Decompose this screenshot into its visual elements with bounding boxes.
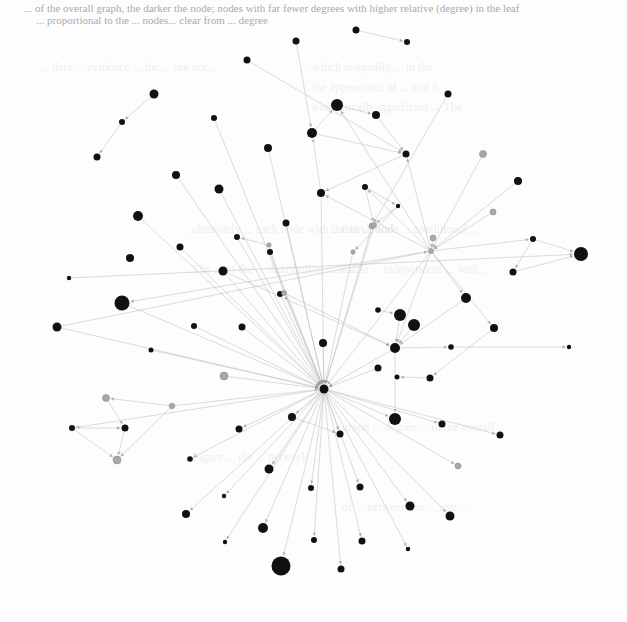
- graph-node: [219, 267, 228, 276]
- graph-edge: [297, 44, 311, 127]
- graph-edge: [536, 240, 574, 252]
- graph-edge: [400, 347, 447, 348]
- graph-node: [223, 540, 227, 544]
- graph-node: [211, 115, 217, 121]
- graph-edge: [328, 390, 495, 434]
- graph-edge: [314, 394, 323, 537]
- graph-node: [267, 243, 271, 247]
- graph-node: [497, 432, 504, 439]
- graph-node: [351, 250, 355, 254]
- graph-edge: [270, 248, 283, 291]
- graph-edge: [153, 351, 318, 388]
- graph-node: [490, 209, 496, 215]
- graph-node: [461, 293, 471, 303]
- graph-node: [390, 343, 400, 353]
- graph-node: [359, 538, 366, 545]
- graph-edge: [239, 240, 322, 385]
- graph-node: [430, 235, 436, 241]
- graph-edge: [324, 394, 340, 565]
- graph-edge: [287, 226, 323, 383]
- graph-node: [396, 204, 400, 208]
- graph-edge: [368, 189, 396, 205]
- graph-node: [490, 324, 498, 332]
- graph-node: [149, 348, 154, 353]
- graph-edge: [374, 97, 446, 223]
- graph-node: [133, 211, 143, 221]
- graph-node: [265, 465, 274, 474]
- graph-edge: [100, 124, 121, 153]
- graph-node: [510, 269, 517, 276]
- graph-edge: [197, 327, 319, 386]
- graph-node: [375, 307, 381, 313]
- graph-edge: [321, 197, 324, 384]
- graph-edge: [434, 184, 515, 249]
- graph-edge: [111, 399, 170, 406]
- graph-node: [319, 339, 327, 347]
- graph-edge: [328, 391, 455, 464]
- graph-node: [220, 372, 228, 380]
- graph-node: [427, 375, 434, 382]
- graph-node: [480, 151, 487, 158]
- graph-node: [215, 185, 224, 194]
- graph-node: [439, 421, 446, 428]
- graph-node: [455, 463, 461, 469]
- graph-edge: [434, 240, 530, 251]
- graph-edge: [401, 377, 427, 378]
- graph-node: [69, 425, 75, 431]
- graph-edge: [286, 294, 389, 345]
- graph-edge: [343, 107, 371, 114]
- graph-node: [150, 90, 159, 99]
- graph-node: [362, 184, 368, 190]
- graph-node: [258, 523, 268, 533]
- graph-edge: [250, 62, 402, 152]
- graph-edge: [125, 97, 151, 119]
- graph-node: [406, 502, 415, 511]
- graph-node: [187, 456, 193, 462]
- graph-edge: [221, 193, 321, 384]
- graph-node: [236, 426, 243, 433]
- graph-edge: [433, 253, 491, 324]
- graph-edge: [312, 394, 324, 485]
- graph-edge: [245, 329, 320, 386]
- graph-node: [375, 365, 382, 372]
- graph-node: [574, 247, 588, 261]
- graph-node: [264, 144, 272, 152]
- graph-node: [448, 344, 454, 350]
- graph-edge: [296, 418, 336, 432]
- graph-edge: [368, 190, 429, 250]
- graph-node: [311, 537, 317, 543]
- graph-node: [408, 319, 420, 331]
- scanned-page: ... of the overall graph, the darker the…: [0, 0, 627, 622]
- graph-edge: [325, 254, 352, 383]
- graph-edge: [325, 195, 428, 250]
- graph-node: [267, 249, 273, 255]
- graph-edge: [327, 392, 446, 512]
- graph-node: [122, 425, 129, 432]
- graph-edge: [326, 229, 372, 384]
- graph-edge: [226, 392, 321, 493]
- graph-node: [182, 510, 190, 518]
- graph-node: [282, 291, 287, 296]
- graph-edge: [328, 390, 437, 422]
- graph-node: [293, 38, 300, 45]
- graph-edge: [228, 377, 319, 389]
- graph-edge: [407, 158, 430, 248]
- graph-node: [239, 324, 246, 331]
- graph-edge: [434, 331, 491, 376]
- graph-edge: [359, 31, 403, 41]
- graph-edge: [434, 214, 491, 250]
- graph-node: [115, 296, 130, 311]
- network-graph: [0, 0, 627, 622]
- graph-node: [446, 512, 455, 521]
- graph-edge: [516, 256, 573, 271]
- graph-node: [191, 323, 197, 329]
- graph-edge: [377, 207, 397, 222]
- graph-node: [567, 345, 571, 349]
- graph-node: [283, 220, 290, 227]
- graph-node: [94, 154, 101, 161]
- graph-node: [337, 431, 344, 438]
- graph-node: [288, 413, 296, 421]
- graph-edge: [515, 242, 531, 269]
- edge-layer: [61, 31, 573, 565]
- graph-node: [234, 234, 240, 240]
